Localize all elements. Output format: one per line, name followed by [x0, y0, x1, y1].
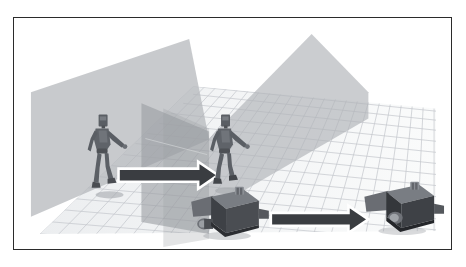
figure-frame	[13, 17, 452, 250]
figure-caption	[13, 252, 452, 265]
scene-canvas	[14, 18, 451, 249]
simulation-viewport[interactable]	[14, 18, 451, 249]
figure-root	[0, 0, 466, 267]
